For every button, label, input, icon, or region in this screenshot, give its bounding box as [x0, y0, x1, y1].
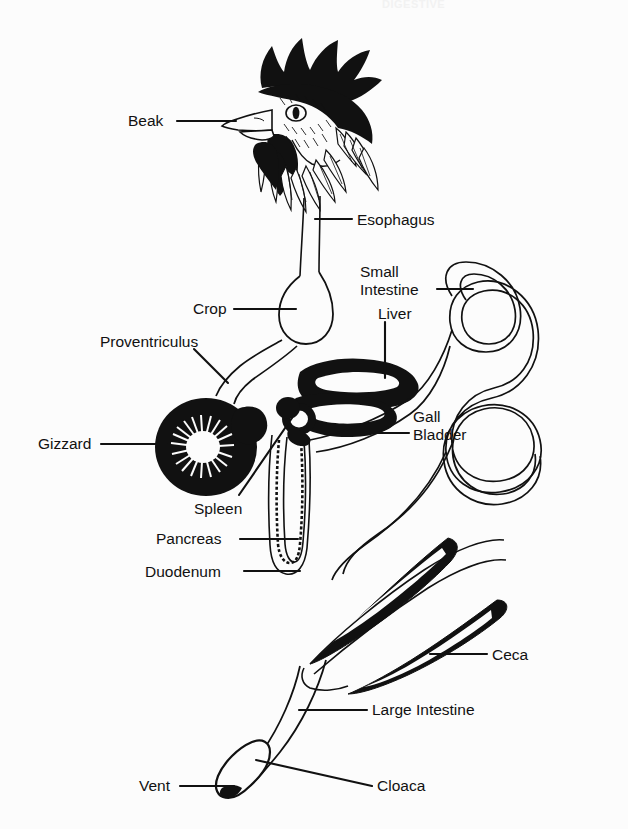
label-gall-bladder-line1: Gall [413, 408, 441, 425]
beak-lower-shape [240, 130, 274, 140]
label-cloaca: Cloaca [377, 777, 425, 795]
label-liver: Liver [378, 305, 412, 323]
label-proventriculus: Proventriculus [100, 333, 198, 351]
ceca-shape [302, 538, 507, 694]
label-esophagus: Esophagus [357, 211, 435, 229]
label-small-intestine-line1: Small [360, 263, 399, 280]
label-ceca: Ceca [492, 646, 528, 664]
esophagus-shape [300, 196, 320, 276]
proventriculus-shape [216, 340, 297, 404]
label-large-intestine: Large Intestine [372, 701, 475, 719]
gizzard-shape [155, 398, 267, 496]
label-gall-bladder: Gall Bladder [413, 408, 523, 445]
label-crop: Crop [193, 300, 227, 318]
neck-shadow-shape [253, 142, 279, 190]
diagram-page: DIGESTIVE [0, 0, 628, 829]
leader-cloaca [256, 760, 372, 786]
label-small-intestine-line2: Intestine [360, 281, 419, 298]
spleen-shape [276, 397, 300, 419]
duodenum-shape [269, 435, 310, 574]
label-duodenum: Duodenum [145, 563, 221, 581]
eye-pupil [293, 107, 300, 119]
label-vent: Vent [139, 777, 170, 795]
label-spleen: Spleen [194, 500, 242, 518]
cloaca-shape [216, 740, 270, 798]
leader-proventriculus [194, 349, 228, 383]
chicken-digestive-system-illustration [0, 0, 628, 829]
label-pancreas: Pancreas [156, 530, 221, 548]
label-small-intestine: Small Intestine [360, 263, 480, 300]
pancreas-shape [277, 440, 303, 563]
label-gizzard: Gizzard [38, 435, 91, 453]
rooster-head-illustration [222, 38, 382, 212]
label-beak: Beak [128, 112, 163, 130]
label-gall-bladder-line2: Bladder [413, 426, 466, 443]
